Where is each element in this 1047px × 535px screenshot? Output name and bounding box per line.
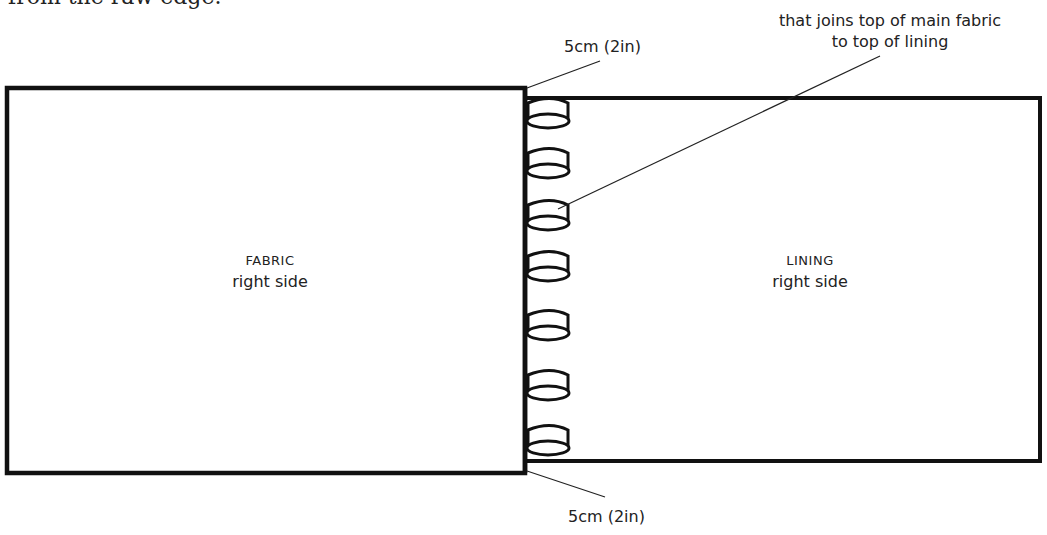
loop-icon (527, 99, 569, 129)
bottom-offset-label: 5cm (2in) (568, 506, 645, 527)
loop-note-line1: that joins top of main fabric (760, 10, 1020, 31)
hanging-loops (527, 99, 569, 456)
fabric-label: FABRIC right side (200, 250, 340, 292)
fabric-title: FABRIC (200, 250, 340, 271)
curtain-diagram (0, 0, 1047, 535)
loop-icon (527, 371, 569, 401)
leader-line-top-offset (527, 61, 600, 88)
lining-title: LINING (740, 250, 880, 271)
leader-line-bottom-offset (527, 471, 605, 497)
leader-line-loop-note (558, 56, 880, 209)
lining-subtitle: right side (740, 271, 880, 292)
fabric-subtitle: right side (200, 271, 340, 292)
loop-note-line2: to top of lining (760, 31, 1020, 52)
loop-icon (527, 201, 569, 231)
lining-label: LINING right side (740, 250, 880, 292)
loop-icon (527, 426, 569, 456)
loop-icon (527, 149, 569, 179)
top-offset-label: 5cm (2in) (564, 36, 641, 57)
loop-icon (527, 311, 569, 341)
loop-icon (527, 252, 569, 282)
